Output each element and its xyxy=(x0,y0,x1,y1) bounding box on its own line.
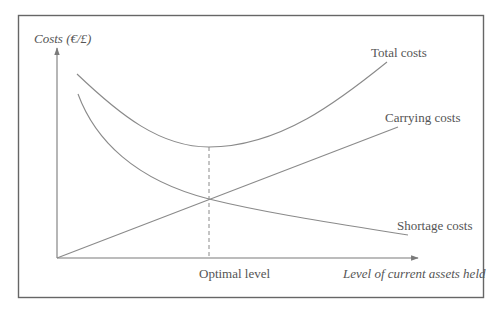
x-axis-label: Level of current assets held xyxy=(342,266,486,281)
carrying-costs-line xyxy=(57,127,398,258)
cost-diagram: Costs (€/£) Total costs Carrying costs S… xyxy=(0,0,504,312)
carrying-costs-label: Carrying costs xyxy=(385,110,460,125)
optimal-level-label: Optimal level xyxy=(199,266,271,281)
shortage-costs-label: Shortage costs xyxy=(397,218,472,233)
shortage-costs-curve xyxy=(78,94,408,235)
total-costs-label: Total costs xyxy=(371,45,427,60)
y-axis-label: Costs (€/£) xyxy=(34,31,91,46)
total-costs-curve xyxy=(77,62,387,147)
